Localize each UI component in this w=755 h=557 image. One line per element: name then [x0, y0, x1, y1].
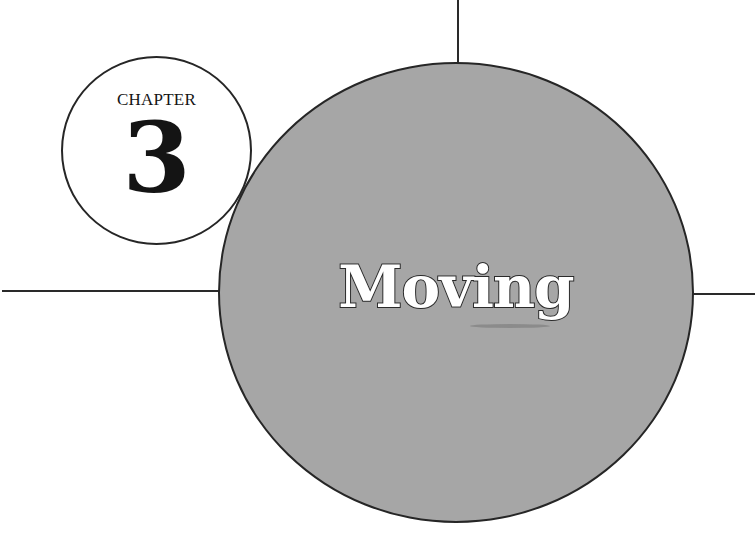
- left-divider-line: [2, 290, 220, 292]
- chapter-number: 3: [61, 108, 252, 208]
- right-divider-line: [693, 293, 755, 295]
- chapter-opener-page: Moving CHAPTER 3: [0, 0, 755, 557]
- chapter-title: Moving: [330, 250, 582, 324]
- top-divider-line: [457, 0, 459, 63]
- title-underline-shadow: [470, 324, 550, 328]
